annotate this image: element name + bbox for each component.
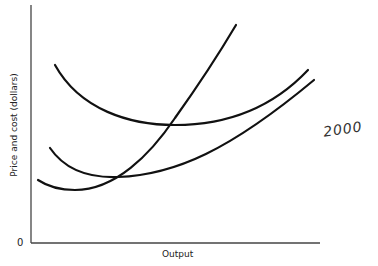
average-total-cost-curve (55, 65, 308, 125)
average-variable-cost-curve (50, 80, 314, 177)
cost-curves-chart (0, 0, 378, 266)
x-axis-label: Output (162, 249, 193, 259)
y-axis-label: Price and cost (dollars) (9, 73, 19, 176)
origin-label: 0 (17, 237, 23, 248)
